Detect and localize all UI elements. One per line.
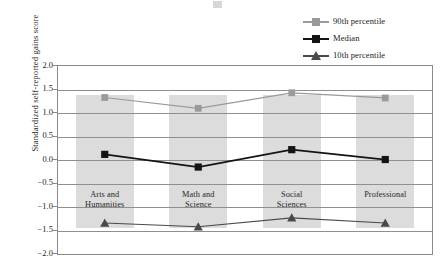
y-axis-tick-mark — [53, 89, 57, 90]
legend-key-square-icon — [303, 16, 329, 27]
y-axis-tick-label: 1.5 — [27, 83, 53, 93]
legend-label: 10th percentile — [333, 50, 385, 61]
y-axis-tick-mark — [53, 183, 57, 184]
data-point-square — [101, 94, 108, 101]
data-point-square — [382, 95, 389, 102]
series-line — [105, 218, 386, 227]
legend-label: 90th percentile — [333, 16, 385, 27]
page-top-artifact — [213, 1, 222, 8]
legend-item-median: Median — [303, 31, 443, 46]
y-axis-tick-label: −2.0 — [27, 248, 53, 258]
y-axis-tick-label: 0.5 — [27, 130, 53, 140]
data-point-square — [195, 163, 202, 170]
y-axis-tick-label: −0.5 — [27, 177, 53, 187]
series-layer — [58, 66, 432, 254]
plot-inner: Arts andHumanitiesMath andScienceSocialS… — [58, 66, 432, 254]
series-line — [105, 150, 386, 167]
legend-item-10th-percentile: 10th percentile — [303, 48, 443, 63]
data-point-square — [288, 146, 295, 153]
y-axis-tick-label: 1.0 — [27, 107, 53, 117]
y-axis-tick-label: −1.5 — [27, 224, 53, 234]
legend-label: Median — [333, 33, 360, 44]
y-axis-tick-mark — [53, 136, 57, 137]
y-axis-tick-label: −1.0 — [27, 201, 53, 211]
chart-legend: 90th percentile Median 10th percentile — [303, 14, 443, 65]
data-point-square — [195, 105, 202, 112]
plot-area: Arts andHumanitiesMath andScienceSocialS… — [57, 65, 433, 255]
y-axis-tick-label: 0.0 — [27, 154, 53, 164]
y-axis-tick-mark — [53, 253, 57, 254]
y-axis-tick-label: 2.0 — [27, 60, 53, 70]
chart-page: 90th percentile Median 10th percentile S… — [0, 0, 447, 272]
y-axis-tick-mark — [53, 206, 57, 207]
y-axis-tick-mark — [53, 230, 57, 231]
y-axis-tick-mark — [53, 65, 57, 66]
legend-key-triangle-icon — [303, 50, 329, 61]
y-axis-tick-mark — [53, 112, 57, 113]
legend-key-square-icon — [303, 33, 329, 44]
data-point-square — [101, 151, 108, 158]
legend-item-90th-percentile: 90th percentile — [303, 14, 443, 29]
data-point-square — [288, 89, 295, 96]
series-line — [105, 93, 386, 109]
data-point-square — [382, 156, 389, 163]
y-axis-tick-mark — [53, 159, 57, 160]
